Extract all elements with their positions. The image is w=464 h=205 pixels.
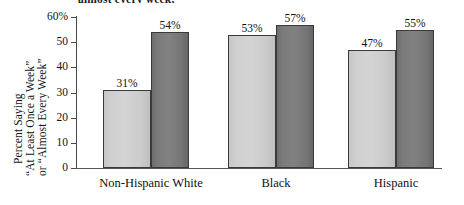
plot-area: 0102030405060% 31%54%53%57%47%55% Non-Hi…	[76, 16, 442, 169]
bar-non-hispanic-white-light: 31%	[103, 90, 151, 168]
category-label-hispanic: Hispanic	[374, 176, 418, 191]
y-axis-tick-label: 20	[34, 112, 68, 124]
y-axis-tick-label: 50	[34, 36, 68, 48]
category-label-non-hispanic-white: Non-Hispanic White	[99, 176, 203, 191]
y-axis-tick	[71, 168, 76, 169]
chart-figure: almost every week, Percent Saying “At Le…	[0, 0, 464, 205]
bar-black-light: 53%	[228, 35, 276, 168]
y-axis-line	[76, 16, 77, 169]
y-axis-title-line-1: Percent Saying	[12, 93, 24, 164]
bar-value-label: 47%	[361, 37, 382, 49]
bar-hispanic-dark: 55%	[396, 30, 434, 168]
category-label-black: Black	[261, 176, 290, 191]
y-axis-tick	[71, 118, 76, 119]
bar-value-label: 55%	[404, 17, 425, 29]
bar-non-hispanic-white-dark: 54%	[151, 32, 189, 168]
bar-value-label: 57%	[284, 12, 305, 24]
y-axis-tick-label: 0	[34, 162, 68, 174]
bar-hispanic-light: 47%	[348, 50, 396, 168]
x-axis-line	[76, 168, 442, 169]
caption-fragment-text: almost every week,	[78, 0, 338, 3]
bar-black-dark: 57%	[276, 25, 314, 168]
y-axis-tick-label: 40	[34, 61, 68, 73]
y-axis-tick	[71, 42, 76, 43]
y-axis-tick	[71, 93, 76, 94]
y-axis-tick	[71, 17, 76, 18]
y-axis-tick-label: 60%	[34, 11, 68, 23]
bar-value-label: 54%	[159, 19, 180, 31]
y-axis-tick-label: 10	[34, 137, 68, 149]
bar-value-label: 31%	[116, 77, 137, 89]
bar-value-label: 53%	[241, 22, 262, 34]
y-axis-tick-labels: 0102030405060%	[34, 16, 68, 169]
y-axis-tick	[71, 67, 76, 68]
y-axis-tick	[71, 143, 76, 144]
y-axis-tick-label: 30	[34, 87, 68, 99]
